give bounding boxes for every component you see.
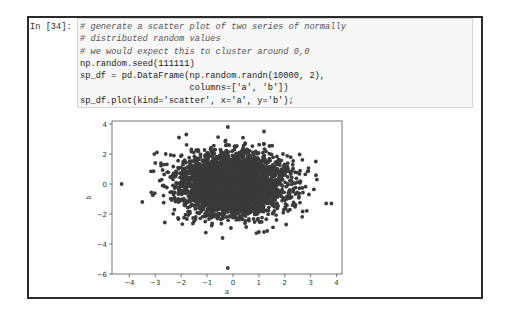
x-tick-label: 2 [283, 279, 287, 287]
x-tick-label: −4 [124, 279, 135, 287]
x-axis-ticks: −4−3−2−101234 [124, 274, 339, 287]
y-tick-label: −2 [97, 211, 107, 219]
y-axis-ticks: −6−4−2024 [97, 121, 112, 279]
x-tick-label: −1 [202, 279, 212, 287]
x-tick-label: 3 [308, 279, 312, 287]
x-tick-label: 1 [257, 279, 261, 287]
x-tick-label: 0 [231, 279, 235, 287]
y-tick-label: 0 [103, 181, 107, 189]
x-axis-label: a [225, 288, 229, 296]
x-tick-label: −2 [176, 279, 186, 287]
y-axis-label: b [85, 195, 93, 200]
y-tick-label: 4 [103, 121, 108, 129]
y-tick-label: −6 [97, 271, 108, 279]
scatter-plot-output: −4−3−2−101234 −6−4−2024 a b [0, 0, 505, 315]
x-tick-label: 4 [334, 279, 339, 287]
y-tick-label: −4 [97, 241, 108, 249]
x-tick-label: −3 [150, 279, 160, 287]
scatter-points [120, 125, 334, 270]
y-tick-label: 2 [103, 151, 107, 159]
